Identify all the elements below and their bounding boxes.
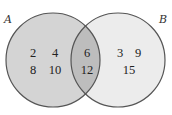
set-b-element: 3 [117, 46, 123, 60]
set-b-element: 15 [123, 63, 136, 77]
venn-diagram: A B 2 4 8 10 6 12 3 9 15 [0, 0, 172, 115]
set-a-element: 2 [30, 46, 36, 60]
intersection-element: 6 [84, 46, 90, 60]
intersection-element: 12 [81, 63, 94, 77]
set-a-label: A [3, 13, 12, 26]
set-a-element: 4 [52, 46, 59, 60]
set-a-element: 10 [49, 63, 62, 77]
set-b-label: B [158, 13, 167, 26]
venn-svg: A B 2 4 8 10 6 12 3 9 15 [0, 0, 172, 115]
set-a-element: 8 [30, 63, 36, 77]
set-b-element: 9 [135, 46, 141, 60]
